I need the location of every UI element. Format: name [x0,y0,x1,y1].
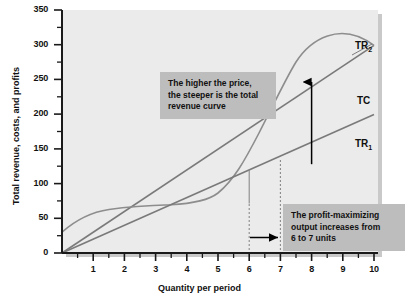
x-tick-8: 8 [303,264,321,274]
y-axis-title: Total revenue, costs, and profits [11,61,21,211]
output-callout-line-1: The profit-maximizing [291,210,398,222]
output-callout-line-2: output increases from [291,222,398,234]
curve-label-tr1-subscript: 1 [368,144,372,151]
x-tick-10: 10 [365,264,383,274]
x-axis-title: Quantity per period [158,283,241,293]
curve-label-tr2-text: TR [355,40,368,51]
y-tick-50: 50 [22,212,48,222]
curve-label-tr1-text: TR [355,138,368,149]
profit-maximizing-output-callout: The profit-maximizing output increases f… [283,204,405,251]
y-tick-100: 100 [22,178,48,188]
price-callout-line-1: The higher the price, [168,78,269,90]
y-tick-0: 0 [22,247,48,257]
price-callout-line-2: the steeper is the total [168,90,269,102]
price-steepness-callout: The higher the price, the steeper is the… [160,72,276,119]
y-tick-200: 200 [22,108,48,118]
curve-label-tr1: TR1 [355,138,372,151]
x-tick-7: 7 [271,264,289,274]
x-tick-4: 4 [178,264,196,274]
y-tick-300: 300 [22,39,48,49]
x-tick-3: 3 [147,264,165,274]
y-tick-250: 250 [22,73,48,83]
curve-label-tc: TC [357,95,370,106]
y-tick-150: 150 [22,143,48,153]
output-callout-line-3: 6 to 7 units [291,233,398,245]
chart-figure: 0 50 100 150 200 250 300 350 1 2 3 4 5 6… [0,0,418,300]
curve-label-tr2-subscript: 2 [368,46,372,53]
curve-label-tc-text: TC [357,95,370,106]
x-tick-1: 1 [84,264,102,274]
x-tick-9: 9 [334,264,352,274]
x-tick-6: 6 [240,264,258,274]
y-tick-350: 350 [22,4,48,14]
x-tick-5: 5 [209,264,227,274]
price-callout-line-3: revenue curve [168,101,269,113]
curve-label-tr2: TR2 [355,40,372,53]
x-tick-2: 2 [115,264,133,274]
